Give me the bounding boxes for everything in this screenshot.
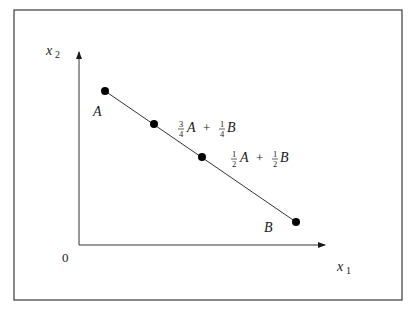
label-b: B xyxy=(264,220,273,235)
svg-text:3: 3 xyxy=(179,119,183,129)
point-a xyxy=(101,87,109,95)
label-three-quarter: 3 4 A + 1 4 B xyxy=(178,119,236,139)
svg-text:2: 2 xyxy=(232,159,236,169)
svg-text:A: A xyxy=(239,150,249,165)
label-a: A xyxy=(92,104,102,119)
point-midpoint xyxy=(198,153,206,161)
point-three-quarter xyxy=(150,120,158,128)
svg-text:+: + xyxy=(203,120,210,135)
svg-text:1: 1 xyxy=(273,149,277,159)
svg-text:A: A xyxy=(186,120,196,135)
svg-text:2: 2 xyxy=(273,159,277,169)
svg-text:1: 1 xyxy=(220,119,224,129)
convex-combination-diagram: x 2 x 1 0 A 3 4 A + 1 4 B 1 2 A + 1 2 B … xyxy=(0,0,412,311)
svg-text:B: B xyxy=(280,150,289,165)
y-axis-label: x xyxy=(45,43,53,58)
x-axis-subscript: 1 xyxy=(346,265,351,276)
point-b xyxy=(292,218,300,226)
x-axis-label: x xyxy=(336,259,344,274)
origin-label: 0 xyxy=(62,250,69,265)
y-axis-subscript: 2 xyxy=(55,49,60,60)
svg-text:B: B xyxy=(227,120,236,135)
svg-text:1: 1 xyxy=(232,149,236,159)
label-midpoint: 1 2 A + 1 2 B xyxy=(231,149,289,169)
svg-text:+: + xyxy=(256,150,263,165)
figure-frame xyxy=(14,10,402,300)
svg-text:4: 4 xyxy=(220,129,225,139)
svg-text:4: 4 xyxy=(179,129,184,139)
